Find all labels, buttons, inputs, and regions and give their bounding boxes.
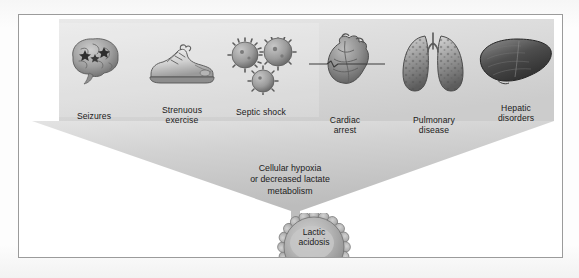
liver-icon (475, 35, 555, 91)
cause-label-cardiac: Cardiac arrest (309, 115, 381, 135)
cause-label-pulmonary: Pulmonary disease (397, 115, 471, 135)
heart-flatline-icon (307, 33, 393, 95)
running-shoe-icon (145, 41, 219, 87)
brain-icon (63, 33, 125, 85)
cause-label-septic: Septic shock (219, 107, 303, 117)
bacteria-icon (225, 37, 297, 95)
diagram-stage: Seizures Strenuous exercise (19, 15, 562, 257)
outcome-label: Lactic acidosis (262, 227, 366, 248)
cause-label-hepatic: Hepatic disorders (477, 103, 555, 123)
cause-label-seizures: Seizures (56, 111, 132, 121)
lungs-icon (397, 31, 471, 95)
diagram-frame: Seizures Strenuous exercise (18, 14, 563, 258)
cause-label-exercise: Strenuous exercise (145, 105, 219, 125)
mechanism-text: Cellular hypoxia or decreased lactate me… (200, 163, 380, 197)
